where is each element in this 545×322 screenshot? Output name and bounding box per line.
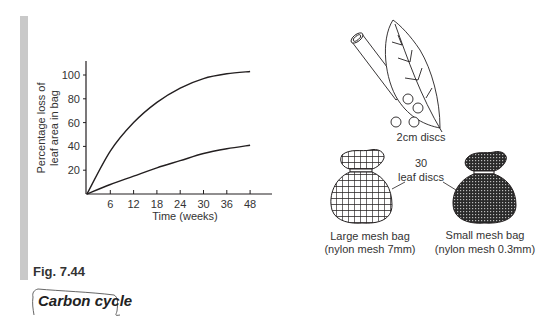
figure-label: Fig. 7.44 (33, 264, 85, 279)
leader-line-left (392, 182, 405, 189)
discs-size-label: 2cm discs (381, 131, 461, 143)
leaf-icon (385, 20, 442, 132)
disc-count-label: 30 (396, 157, 446, 169)
small-bag-title: Small mesh bag (430, 229, 540, 241)
disc-count-sublabel: leaf discs (391, 171, 451, 183)
section-tag-text: Carbon cycle (38, 292, 132, 309)
large-bag-detail: (nylon mesh 7mm) (312, 243, 428, 255)
small-bag-detail: (nylon mesh 0.3mm) (424, 243, 545, 255)
large-mesh-bag-icon (331, 149, 392, 223)
large-bag-title: Large mesh bag (315, 230, 425, 242)
small-mesh-bag-icon (453, 152, 516, 224)
section-tag: Carbon cycle (30, 287, 118, 315)
leader-line-right (443, 182, 456, 190)
